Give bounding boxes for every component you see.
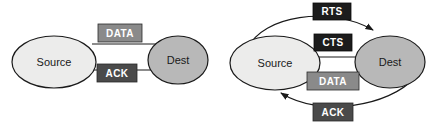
message-label-rts-right[interactable]: RTS <box>313 3 351 20</box>
message-label-cts-right-text: CTS <box>322 37 343 48</box>
message-label-data-right-text: DATA <box>319 76 347 87</box>
node-source-right-label: Source <box>258 57 293 69</box>
message-label-data-right[interactable]: DATA <box>307 72 359 90</box>
message-label-ack-left[interactable]: ACK <box>97 64 137 82</box>
node-dest-left[interactable]: Dest <box>148 36 208 84</box>
node-dest-right[interactable]: Dest <box>355 36 425 88</box>
message-label-ack-left-text: ACK <box>106 68 129 79</box>
node-dest-right-label: Dest <box>379 56 402 68</box>
diagram-svg: Source Dest DATA ACK <box>0 0 442 129</box>
message-label-ack-right-text: ACK <box>322 107 345 118</box>
node-source-left-label: Source <box>37 56 72 68</box>
message-label-data-left[interactable]: DATA <box>98 24 142 42</box>
message-label-cts-right[interactable]: CTS <box>314 34 352 51</box>
figure-canvas: Source Dest DATA ACK <box>0 0 442 129</box>
node-dest-left-label: Dest <box>167 54 190 66</box>
diagram-stop-and-wait: Source Dest DATA ACK <box>12 24 208 88</box>
message-label-rts-right-text: RTS <box>321 6 342 17</box>
diagram-rts-cts-handshake: Source Dest RTS CTS DATA <box>230 3 425 121</box>
message-label-data-left-text: DATA <box>106 28 134 39</box>
node-source-right[interactable]: Source <box>230 36 320 90</box>
node-source-left[interactable]: Source <box>12 36 96 88</box>
message-label-ack-right[interactable]: ACK <box>313 103 353 121</box>
